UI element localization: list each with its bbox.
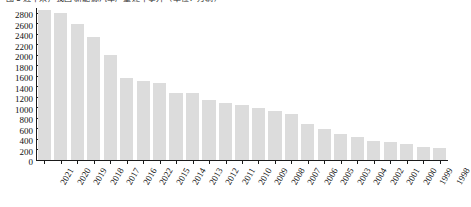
- x-axis-tick-label: 2009: [272, 166, 290, 187]
- x-axis-tick-mark: [143, 161, 144, 164]
- x-axis-tick-label: 1999: [437, 166, 455, 187]
- x-axis-tick-label: 2002: [388, 166, 406, 187]
- bar: [120, 78, 133, 160]
- bar: [384, 142, 397, 160]
- bar: [400, 144, 413, 160]
- bar: [235, 105, 248, 160]
- x-axis-tick-mark: [44, 161, 45, 164]
- chart-title: 图 2 近年来，我国 新能源汽车产量逐年攀升（单位：万辆）: [6, 0, 450, 4]
- x-axis-tick-label: 2021: [58, 166, 76, 187]
- x-axis-tick-label: 2004: [371, 166, 389, 187]
- x-axis-tick-mark: [291, 161, 292, 164]
- bar: [104, 55, 117, 160]
- bar: [433, 148, 446, 160]
- x-axis-tick-mark: [110, 161, 111, 164]
- x-axis-tick-mark: [390, 161, 391, 164]
- y-axis-tick: 2800: [15, 4, 36, 22]
- x-axis-tick-mark: [127, 161, 128, 164]
- bar: [301, 124, 314, 160]
- bar: [169, 93, 182, 160]
- x-axis-tick-mark: [226, 161, 227, 164]
- x-axis-tick-label: 2012: [223, 166, 241, 187]
- x-axis-tick-label: 2001: [404, 166, 422, 187]
- x-axis-tick-label: 2019: [91, 166, 109, 187]
- x-axis-tick-label: 2007: [305, 166, 323, 187]
- bar: [137, 81, 150, 160]
- bar: [351, 137, 364, 160]
- x-axis-tick-mark: [176, 161, 177, 164]
- x-axis-tick-label: 2015: [174, 166, 192, 187]
- x-axis-tick-mark: [77, 161, 78, 164]
- x-axis-tick-mark: [440, 161, 441, 164]
- x-axis-tick-label: 2003: [355, 166, 373, 187]
- x-axis-tick-mark: [374, 161, 375, 164]
- bar: [268, 111, 281, 160]
- bar: [318, 129, 331, 160]
- x-axis-tick-mark: [61, 161, 62, 164]
- x-axis-tick-mark: [407, 161, 408, 164]
- x-axis-tick-mark: [324, 161, 325, 164]
- bar: [54, 13, 67, 160]
- x-axis-tick-label: 2005: [338, 166, 356, 187]
- x-axis-tick-label: 2011: [239, 166, 256, 186]
- bar: [334, 134, 347, 160]
- x-axis-tick-mark: [94, 161, 95, 164]
- x-axis-tick-label: 2006: [322, 166, 340, 187]
- x-axis-tick-label: 2020: [75, 166, 93, 187]
- x-axis-tick-mark: [341, 161, 342, 164]
- bar: [219, 103, 232, 160]
- bar: [153, 83, 166, 160]
- x-axis-tick-label: 2010: [256, 166, 274, 187]
- x-axis-tick-label: 2016: [141, 166, 159, 187]
- x-axis-tick-label: 2013: [207, 166, 225, 187]
- bar: [252, 108, 265, 160]
- x-axis-tick-label: 1998: [454, 166, 471, 187]
- x-axis-tick-mark: [242, 161, 243, 164]
- x-axis-tick-label: 2017: [124, 166, 142, 187]
- x-axis-tick-mark: [160, 161, 161, 164]
- bar: [367, 141, 380, 160]
- x-axis-tick-label: 2000: [421, 166, 439, 187]
- x-axis-tick-mark: [258, 161, 259, 164]
- x-axis-tick-mark: [193, 161, 194, 164]
- x-axis-tick-mark: [308, 161, 309, 164]
- x-axis-tick-label: 2018: [108, 166, 126, 187]
- bar: [417, 147, 430, 160]
- x-axis-tick-label: 2014: [190, 166, 208, 187]
- x-axis-tick-mark: [209, 161, 210, 164]
- x-axis-tick-label: 2008: [289, 166, 307, 187]
- plot-area: 0200400600800100012001400160018002000220…: [36, 8, 448, 160]
- x-axis-ticks: 2021202020192018201720162022201520142013…: [36, 161, 448, 207]
- bar: [38, 10, 51, 160]
- bar: [71, 24, 84, 160]
- x-axis-tick-label: 2022: [157, 166, 175, 187]
- x-axis-tick-mark: [423, 161, 424, 164]
- bars-layer: [36, 8, 448, 160]
- y-axis-tick-label: 2800: [15, 10, 36, 20]
- x-axis-tick-mark: [275, 161, 276, 164]
- x-axis-tick-mark: [357, 161, 358, 164]
- bar: [285, 114, 298, 160]
- bar: [186, 93, 199, 160]
- bar: [87, 37, 100, 160]
- bar: [202, 100, 215, 160]
